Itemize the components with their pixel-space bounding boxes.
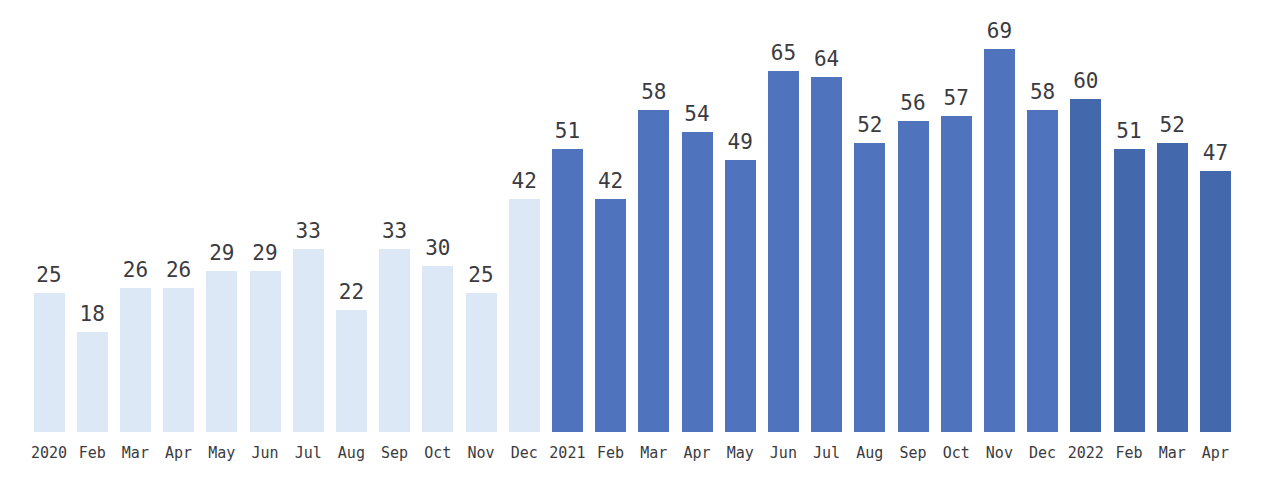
bar-value-label: 33 bbox=[382, 221, 407, 242]
bar bbox=[77, 332, 108, 432]
bar bbox=[293, 249, 324, 432]
bar bbox=[509, 199, 540, 432]
bar-group: 65 bbox=[759, 0, 807, 432]
bar-value-label: 60 bbox=[1073, 71, 1098, 92]
x-axis-tick-label: Oct bbox=[932, 446, 980, 461]
bar-value-label: 56 bbox=[900, 93, 925, 114]
bar-value-label: 26 bbox=[166, 260, 191, 281]
bar-value-label: 25 bbox=[468, 265, 493, 286]
bar-group: 25 bbox=[25, 0, 73, 432]
x-axis-tick-label: 2022 bbox=[1062, 446, 1110, 461]
bar bbox=[725, 160, 756, 432]
bar-group: 26 bbox=[155, 0, 203, 432]
bar-group: 26 bbox=[111, 0, 159, 432]
bar-group: 64 bbox=[803, 0, 851, 432]
bar-value-label: 26 bbox=[123, 260, 148, 281]
bar-value-label: 42 bbox=[598, 171, 623, 192]
bar-group: 25 bbox=[457, 0, 505, 432]
bar-value-label: 52 bbox=[857, 115, 882, 136]
x-axis-tick-label: Feb bbox=[1105, 446, 1153, 461]
bar-group: 33 bbox=[284, 0, 332, 432]
x-axis-tick-label: Jun bbox=[759, 446, 807, 461]
bar bbox=[336, 310, 367, 432]
bar-value-label: 51 bbox=[555, 121, 580, 142]
bar-group: 69 bbox=[975, 0, 1023, 432]
bar-group: 33 bbox=[371, 0, 419, 432]
bar-value-label: 51 bbox=[1116, 121, 1141, 142]
bar bbox=[1157, 143, 1188, 432]
x-axis-tick-label: Sep bbox=[889, 446, 937, 461]
bar-value-label: 29 bbox=[209, 243, 234, 264]
bar-value-label: 57 bbox=[944, 88, 969, 109]
bar bbox=[466, 293, 497, 432]
bar-group: 52 bbox=[1148, 0, 1196, 432]
bar bbox=[1070, 99, 1101, 432]
x-axis-tick-label: Sep bbox=[371, 446, 419, 461]
bar bbox=[638, 110, 669, 432]
bar-group: 54 bbox=[673, 0, 721, 432]
bar-group: 42 bbox=[500, 0, 548, 432]
x-axis-tick-label: Mar bbox=[630, 446, 678, 461]
bar-group: 22 bbox=[327, 0, 375, 432]
bar bbox=[898, 121, 929, 432]
bar bbox=[250, 271, 281, 432]
x-axis-tick-label: Jul bbox=[803, 446, 851, 461]
x-axis-tick-label: Nov bbox=[457, 446, 505, 461]
x-axis-tick-label: May bbox=[716, 446, 764, 461]
bar-group: 60 bbox=[1062, 0, 1110, 432]
x-axis-tick-label: Jul bbox=[284, 446, 332, 461]
bar-value-label: 49 bbox=[728, 132, 753, 153]
plot-area: 25202018Feb26Mar26Apr29May29Jun33Jul22Au… bbox=[0, 0, 1284, 495]
bar-value-label: 30 bbox=[425, 238, 450, 259]
x-axis-tick-label: May bbox=[198, 446, 246, 461]
bar-group: 18 bbox=[68, 0, 116, 432]
bar-group: 56 bbox=[889, 0, 937, 432]
bar-group: 51 bbox=[543, 0, 591, 432]
bar-group: 49 bbox=[716, 0, 764, 432]
bar-group: 42 bbox=[587, 0, 635, 432]
bar-group: 57 bbox=[932, 0, 980, 432]
bar bbox=[811, 77, 842, 432]
bar-value-label: 65 bbox=[771, 43, 796, 64]
x-axis-tick-label: Apr bbox=[155, 446, 203, 461]
bar bbox=[941, 116, 972, 432]
bar-group: 52 bbox=[846, 0, 894, 432]
bar-value-label: 18 bbox=[80, 304, 105, 325]
bar-value-label: 54 bbox=[684, 104, 709, 125]
bar-chart: 25202018Feb26Mar26Apr29May29Jun33Jul22Au… bbox=[0, 0, 1284, 495]
x-axis-tick-label: 2021 bbox=[543, 446, 591, 461]
x-axis-tick-label: Dec bbox=[1019, 446, 1067, 461]
bar-group: 29 bbox=[198, 0, 246, 432]
x-axis-tick-label: Mar bbox=[111, 446, 159, 461]
x-axis-tick-label: Aug bbox=[327, 446, 375, 461]
bar bbox=[1027, 110, 1058, 432]
bar bbox=[379, 249, 410, 432]
x-axis-tick-label: Nov bbox=[975, 446, 1023, 461]
bar-value-label: 52 bbox=[1160, 115, 1185, 136]
bar bbox=[595, 199, 626, 432]
bar-group: 58 bbox=[1019, 0, 1067, 432]
bar bbox=[34, 293, 65, 432]
bar-value-label: 33 bbox=[296, 221, 321, 242]
bar bbox=[682, 132, 713, 432]
x-axis-tick-label: Aug bbox=[846, 446, 894, 461]
bar-value-label: 22 bbox=[339, 282, 364, 303]
bar bbox=[552, 149, 583, 432]
bar bbox=[768, 71, 799, 432]
bar-value-label: 25 bbox=[36, 265, 61, 286]
x-axis-tick-label: Feb bbox=[587, 446, 635, 461]
bar-value-label: 58 bbox=[1030, 82, 1055, 103]
bar bbox=[854, 143, 885, 432]
bar bbox=[1114, 149, 1145, 432]
bar-group: 51 bbox=[1105, 0, 1153, 432]
x-axis-tick-label: Apr bbox=[1191, 446, 1239, 461]
bar-value-label: 42 bbox=[512, 171, 537, 192]
x-axis-tick-label: Jun bbox=[241, 446, 289, 461]
bar bbox=[120, 288, 151, 432]
bar bbox=[422, 266, 453, 433]
x-axis-tick-label: 2020 bbox=[25, 446, 73, 461]
bar-group: 29 bbox=[241, 0, 289, 432]
x-axis-tick-label: Dec bbox=[500, 446, 548, 461]
bar-value-label: 64 bbox=[814, 49, 839, 70]
x-axis-tick-label: Feb bbox=[68, 446, 116, 461]
